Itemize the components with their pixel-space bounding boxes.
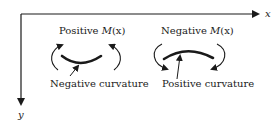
right-moment-arrow-right bbox=[212, 44, 225, 69]
left-curvature-pointer bbox=[70, 66, 78, 76]
x-axis-label: x bbox=[265, 9, 271, 19]
left-moment-symbol: M bbox=[102, 25, 112, 36]
moment-curvature-diagram: x y Positive M(x) Negative curvature Neg… bbox=[0, 0, 278, 128]
left-moment-arrow-right bbox=[110, 45, 120, 70]
right-moment-prefix: Negative bbox=[161, 25, 210, 36]
right-moment-arg: (x) bbox=[220, 25, 233, 36]
right-beam-curve bbox=[164, 51, 213, 59]
left-beam-curve bbox=[62, 56, 101, 63]
right-curvature-pointer bbox=[177, 56, 180, 79]
right-moment-arrow-left bbox=[154, 44, 167, 69]
left-moment-prefix: Positive bbox=[59, 25, 102, 36]
left-moment-label: Positive M(x) bbox=[59, 26, 125, 36]
y-axis-label: y bbox=[18, 110, 24, 120]
diagram-graphics bbox=[0, 0, 278, 128]
right-moment-symbol: M bbox=[210, 25, 220, 36]
right-curvature-label: Positive curvature bbox=[162, 79, 254, 89]
left-curvature-label: Negative curvature bbox=[50, 79, 149, 89]
right-moment-label: Negative M(x) bbox=[161, 26, 234, 36]
left-moment-arrow-left bbox=[52, 45, 62, 70]
left-moment-arg: (x) bbox=[112, 25, 125, 36]
